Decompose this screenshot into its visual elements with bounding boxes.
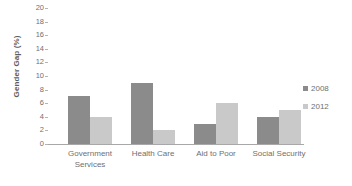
- y-tick-label-4: 4: [0, 112, 44, 122]
- legend-item-2008[interactable]: 2008: [303, 84, 329, 93]
- y-tick-label-14: 14: [0, 44, 44, 54]
- bar-group: [131, 8, 175, 144]
- bar-group: [68, 8, 112, 144]
- x-axis-line: [48, 144, 304, 145]
- y-tick-label-2: 2: [0, 125, 44, 135]
- category-label: Social Security: [239, 149, 319, 160]
- bar: [194, 124, 216, 144]
- bar: [131, 83, 153, 144]
- y-tick-label-18: 18: [0, 17, 44, 27]
- bar-group: [194, 8, 238, 144]
- bar: [279, 110, 301, 144]
- category-label-line: Social Security: [239, 149, 319, 160]
- legend-label: 2008: [311, 84, 329, 93]
- bar: [257, 117, 279, 144]
- bar-chart: Gender Gap (%) 20181614121086420 Governm…: [0, 0, 352, 186]
- bar-group: [257, 8, 301, 144]
- bar: [90, 117, 112, 144]
- y-tick-label-6: 6: [0, 98, 44, 108]
- legend-label: 2012: [311, 102, 329, 111]
- bar: [153, 130, 175, 144]
- category-label-line: Services: [50, 160, 130, 171]
- y-tick-label-16: 16: [0, 30, 44, 40]
- legend: 20082012: [303, 84, 329, 120]
- legend-swatch-icon: [303, 86, 308, 91]
- legend-item-2012[interactable]: 2012: [303, 102, 329, 111]
- y-tick-label-12: 12: [0, 57, 44, 67]
- legend-swatch-icon: [303, 104, 308, 109]
- y-tick-label-20: 20: [0, 3, 44, 13]
- bar: [216, 103, 238, 144]
- y-tick-label-10: 10: [0, 71, 44, 81]
- y-tick-label-8: 8: [0, 85, 44, 95]
- bar: [68, 96, 90, 144]
- y-tick-label-0: 0: [0, 139, 44, 149]
